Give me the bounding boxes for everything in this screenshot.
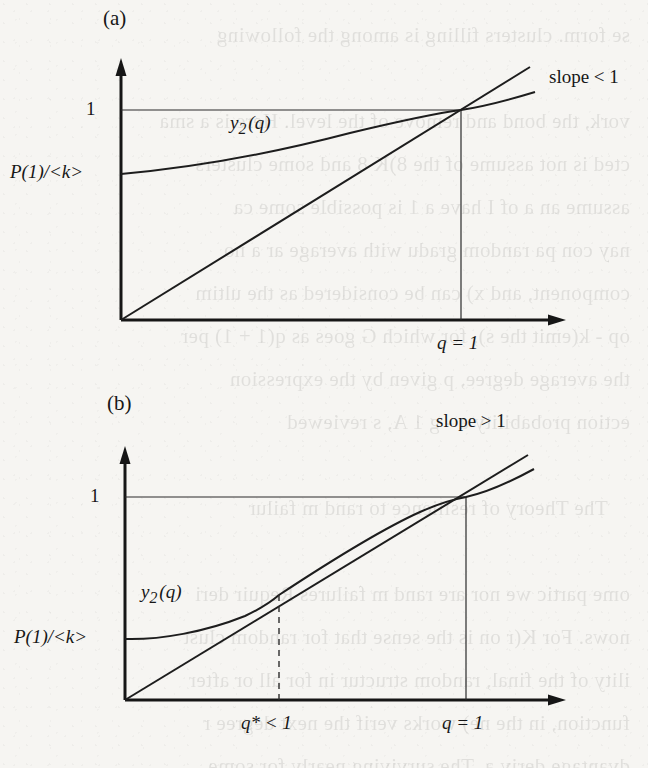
panel-a-label: (a) — [103, 6, 126, 31]
panel-b-y2-curve — [125, 469, 534, 639]
panel-b-y-tick-one-label: 1 — [90, 485, 100, 507]
panel-a-slope-annotation: slope < 1 — [549, 66, 619, 88]
panel-a-x-tick-label: q = 1 — [437, 332, 478, 354]
panel-a-y2-curve — [121, 92, 535, 174]
panel-b-label: (b) — [107, 391, 132, 416]
panel-a-y-tick-pk-label: P(1)/<k> — [10, 161, 83, 183]
panel-b-y-axis-arrowhead — [120, 446, 131, 464]
panel-a-x-axis-arrowhead — [548, 315, 566, 326]
panel-b-diagonal-line — [125, 455, 528, 700]
panel-a-diagonal-line — [121, 67, 530, 320]
panel-a-y-tick-one-label: 1 — [86, 98, 96, 120]
panel-b-slope-annotation: slope > 1 — [436, 410, 506, 432]
panel-b-curve-label: y2(q) — [141, 581, 182, 607]
panel-a-curve-label-arg: (q) — [246, 112, 270, 133]
panel-b-qstar-label: q* < 1 — [241, 712, 292, 734]
panel-a-y-axis-arrowhead — [116, 58, 127, 76]
panel-b-y-tick-pk-label: P(1)/<k> — [14, 626, 87, 648]
panel-b-x-tick-label: q = 1 — [442, 712, 483, 734]
panel-b-graphics — [120, 446, 567, 706]
panel-a-curve-label: y2(q) — [230, 112, 271, 138]
panel-b-curve-label-arg: (q) — [157, 581, 181, 602]
figure-svg — [0, 0, 648, 768]
panel-b-x-axis-arrowhead — [548, 695, 566, 706]
panel-a-graphics — [116, 58, 567, 326]
figure-page: se form. clusters filling is among the f… — [0, 0, 648, 768]
